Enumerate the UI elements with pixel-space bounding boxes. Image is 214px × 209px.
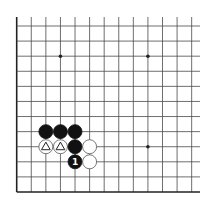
black-stone-disc	[68, 125, 82, 139]
white-stone	[39, 140, 53, 154]
black-stone-disc	[39, 125, 53, 139]
black-stone	[68, 140, 82, 154]
move-number-label: 1	[72, 157, 78, 167]
white-stone	[83, 155, 97, 169]
black-stone	[68, 125, 82, 139]
black-stone	[39, 125, 53, 139]
star-point	[146, 145, 150, 149]
star-point	[59, 54, 63, 58]
white-stone-disc	[83, 140, 97, 154]
black-stone	[53, 125, 67, 139]
white-stone	[83, 140, 97, 154]
black-stone-disc	[68, 140, 82, 154]
white-stone	[53, 140, 67, 154]
black-stone: 1	[68, 155, 82, 169]
board-grid	[17, 17, 200, 192]
white-stone-disc	[83, 155, 97, 169]
go-board: 1	[0, 0, 214, 209]
star-point	[146, 54, 150, 58]
black-stone-disc	[53, 125, 67, 139]
